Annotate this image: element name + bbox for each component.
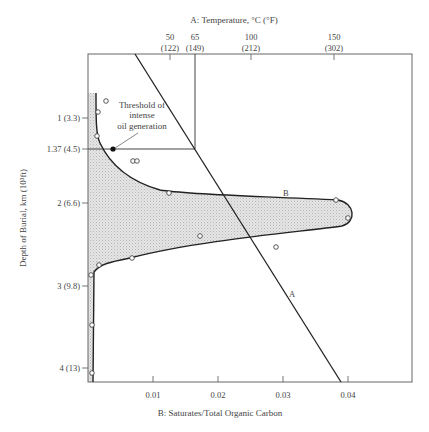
curve-a-label: A [289,289,296,299]
svg-text:Threshold of: Threshold of [119,100,165,110]
chart: A: Temperature, °C (°F) 50 (122) 65 (149… [0,0,429,432]
top-tick-50-f: (122) [161,43,180,53]
top-axis-title: A: Temperature, °C (°F) [190,15,277,25]
svg-text:intense: intense [129,110,155,120]
top-tick-65-c: 65 [191,32,200,42]
svg-text:3 (9.8): 3 (9.8) [57,281,80,291]
curve-b-label: B [283,188,289,198]
top-tick-50-c: 50 [166,32,175,42]
threshold-point [110,146,115,151]
svg-text:2 (6.6): 2 (6.6) [57,198,80,208]
threshold-annotation: Threshold of intense oil generation [115,100,167,148]
svg-text:0.04: 0.04 [341,390,357,400]
top-tick-100-c: 100 [245,32,258,42]
svg-text:1 (3.3): 1 (3.3) [57,113,80,123]
svg-text:0.02: 0.02 [211,390,226,400]
svg-text:oil generation: oil generation [117,121,167,131]
x-axis-title: B: Saturates/Total Organic Carbon [158,408,283,418]
top-tick-150-f: (302) [325,43,344,53]
svg-text:1.37 (4.5): 1.37 (4.5) [47,144,80,154]
svg-text:0.01: 0.01 [146,390,161,400]
top-axis-ticks: 50 (122) 65 (149) 100 (212) 150 (302) [161,32,344,60]
top-tick-65-f: (149) [186,43,205,53]
shaded-envelope [88,93,352,382]
svg-text:0.03: 0.03 [276,390,291,400]
top-tick-100-f: (212) [242,43,261,53]
top-tick-150-c: 150 [328,32,341,42]
y-axis-ticks: 1 (3.3) 1.37 (4.5) 2 (6.6) 3 (9.8) 4 (13… [47,113,88,373]
svg-text:4 (13): 4 (13) [59,363,80,373]
y-axis-title: Depth of Burial, km (10³ft) [18,169,28,267]
x-axis-ticks: 0.01 0.02 0.03 0.04 [146,376,357,400]
